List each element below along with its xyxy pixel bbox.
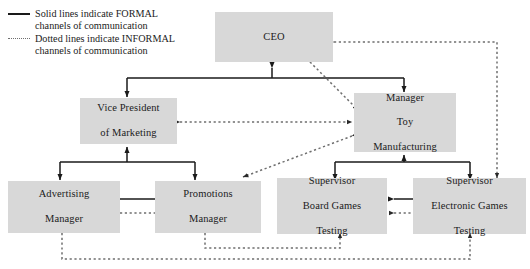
- dotted-line-swatch: [8, 33, 30, 45]
- node-ceo: CEO: [215, 12, 333, 62]
- vp-line-2: of Marketing: [94, 127, 162, 139]
- mgr-line-3: Manufacturing: [370, 141, 440, 153]
- node-advertising-manager: Advertising Manager: [8, 181, 120, 233]
- legend-formal-text: Solid lines indicate FORMAL channels of …: [35, 8, 158, 33]
- adv-line-2: Manager: [36, 213, 93, 225]
- prom-line-1: Promotions: [180, 188, 235, 200]
- vp-line-1: Vice President: [94, 102, 162, 114]
- node-manager-toy-manufacturing: Manager Toy Manufacturing: [354, 93, 456, 152]
- mgr-line-1: Manager: [370, 92, 440, 104]
- legend-formal-line1: Solid lines indicate FORMAL: [35, 8, 158, 19]
- node-supervisor-board-games-testing-label: Supervisor Board Games Testing: [297, 175, 368, 237]
- legend-item-informal: Dotted lines indicate INFORMAL channels …: [8, 33, 175, 58]
- node-supervisor-electronic-games-testing: Supervisor Electronic Games Testing: [413, 178, 526, 234]
- node-advertising-manager-label: Advertising Manager: [33, 188, 96, 225]
- node-vice-president-of-marketing-label: Vice President of Marketing: [91, 102, 165, 139]
- org-chart-diagram: Solid lines indicate FORMAL channels of …: [0, 0, 530, 269]
- solid-line-swatch: [8, 8, 30, 20]
- legend-item-formal: Solid lines indicate FORMAL channels of …: [8, 8, 158, 33]
- node-promotions-manager-label: Promotions Manager: [177, 188, 238, 225]
- node-manager-toy-manufacturing-label: Manager Toy Manufacturing: [367, 92, 443, 154]
- node-ceo-label: CEO: [260, 31, 287, 43]
- node-promotions-manager: Promotions Manager: [155, 181, 261, 233]
- adv-line-1: Advertising: [36, 188, 93, 200]
- prom-line-2: Manager: [180, 213, 235, 225]
- node-supervisor-board-games-testing: Supervisor Board Games Testing: [277, 178, 387, 234]
- board-line-2: Board Games: [300, 200, 365, 212]
- elec-line-3: Testing: [428, 225, 511, 237]
- board-line-1: Supervisor: [300, 175, 365, 187]
- elec-line-2: Electronic Games: [428, 200, 511, 212]
- elec-line-1: Supervisor: [428, 175, 511, 187]
- legend-informal-line1: Dotted lines indicate INFORMAL: [35, 33, 175, 44]
- legend-informal-line2: channels of communication: [35, 45, 148, 56]
- board-line-3: Testing: [300, 225, 365, 237]
- legend-informal-text: Dotted lines indicate INFORMAL channels …: [35, 33, 175, 58]
- mgr-line-2: Toy: [370, 116, 440, 128]
- legend-formal-line2: channels of communication: [35, 20, 148, 31]
- node-supervisor-electronic-games-testing-label: Supervisor Electronic Games Testing: [425, 175, 514, 237]
- node-vice-president-of-marketing: Vice President of Marketing: [80, 98, 177, 144]
